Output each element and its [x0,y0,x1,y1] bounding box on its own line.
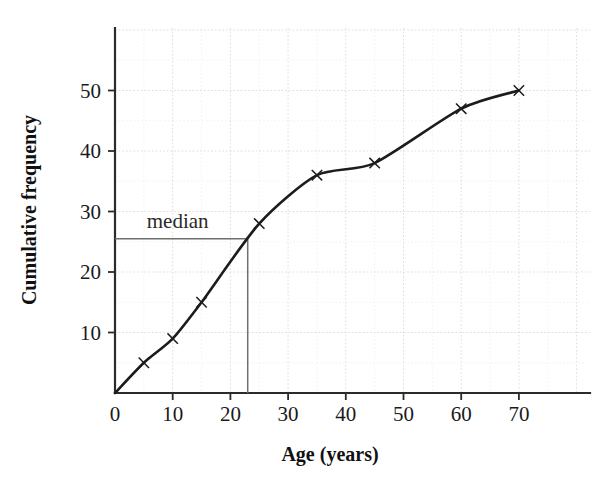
x-tick-label: 50 [393,402,414,426]
x-tick-label: 10 [162,402,183,426]
x-tick-label: 20 [220,402,241,426]
data-point-marker [456,103,466,113]
x-tick-label: 0 [110,402,121,426]
x-axis-title: Age (years) [281,443,378,466]
chart-svg: 1020304050010203040506070 median Age (ye… [0,0,600,485]
y-tick-label: 30 [80,200,101,224]
median-guide-lines [115,239,248,393]
x-tick-label: 70 [508,402,529,426]
tick-labels: 1020304050010203040506070 [80,79,529,427]
axis-ticks [108,91,519,401]
x-tick-label: 40 [335,402,356,426]
x-tick-label: 60 [451,402,472,426]
data-point-marker [168,333,178,343]
cumulative-frequency-chart: 1020304050010203040506070 median Age (ye… [0,0,600,485]
x-tick-label: 30 [278,402,299,426]
data-point-marker [254,218,264,228]
y-tick-label: 40 [80,139,101,163]
median-label: median [147,209,209,233]
y-tick-label: 20 [80,260,101,284]
y-axis-title: Cumulative frequency [18,115,41,305]
y-tick-label: 50 [80,79,101,103]
annotations: median [147,209,209,233]
y-tick-label: 10 [80,321,101,345]
data-point-marker [312,170,322,180]
data-point-marker [369,158,379,168]
